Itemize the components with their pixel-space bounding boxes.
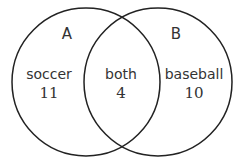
set-a-circle	[12, 8, 160, 156]
intersection-count: 4	[116, 84, 126, 102]
intersection-category: both	[105, 66, 137, 82]
set-b-count: 10	[184, 84, 203, 102]
set-b-label: B	[171, 25, 181, 43]
set-b-category: baseball	[165, 66, 224, 82]
set-a-label: A	[62, 25, 73, 43]
venn-diagram: A B soccer 11 both 4 baseball 10	[0, 0, 238, 163]
set-a-category: soccer	[26, 66, 72, 82]
set-a-count: 11	[39, 84, 58, 102]
set-b-circle	[84, 8, 232, 156]
